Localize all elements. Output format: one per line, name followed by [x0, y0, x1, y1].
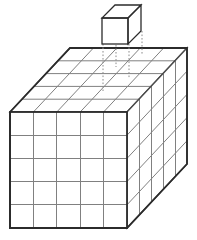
front-face-fill	[10, 112, 127, 228]
cube-diagram-canvas: Five by five by five cube with one unit …	[0, 0, 197, 240]
front-face	[10, 112, 127, 228]
detached-unit-cube	[102, 5, 141, 44]
cube-diagram-figure: Five by five by five cube with one unit …	[0, 0, 197, 240]
small-cube-front-fill	[102, 18, 128, 44]
main-cube	[10, 48, 187, 228]
